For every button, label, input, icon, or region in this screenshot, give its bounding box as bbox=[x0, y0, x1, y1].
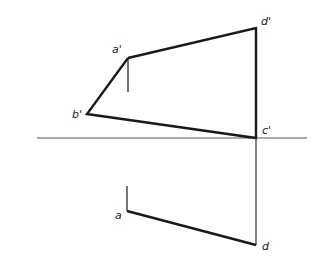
diagram-svg: a' b' c' d' a d bbox=[0, 0, 332, 271]
label-c-prime: c' bbox=[262, 124, 271, 137]
label-a-prime: a' bbox=[112, 43, 122, 56]
label-b-prime: b' bbox=[72, 108, 82, 121]
label-d: d bbox=[262, 240, 270, 253]
label-a: a bbox=[115, 209, 122, 222]
horizontal-projection-ad bbox=[127, 211, 256, 245]
label-d-prime: d' bbox=[261, 15, 271, 28]
projection-diagram: a' b' c' d' a d bbox=[0, 0, 332, 271]
